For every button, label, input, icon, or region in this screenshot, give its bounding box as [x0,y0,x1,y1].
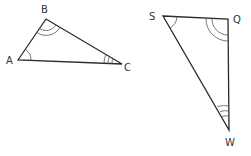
triangles-diagram: A B C S Q W [0,0,251,156]
vertex-label-w: W [225,137,235,148]
angle-q-arc-2 [206,18,228,41]
vertex-label-a: A [6,55,13,66]
angle-s-arc [170,17,177,28]
angle-c-arc-3 [104,55,106,64]
angle-c-arc-2 [108,57,110,64]
vertex-label-b: B [41,4,48,15]
vertex-label-s: S [149,11,155,22]
triangle-sqw: S Q W [149,11,241,148]
angle-w-arc-2 [220,111,229,112]
angle-a-arc [26,50,32,61]
angle-c-arc-1 [112,59,113,64]
triangle-abc: A B C [6,4,131,73]
angle-w-arc-3 [218,106,230,107]
vertex-label-q: Q [233,14,241,25]
vertex-label-c: C [124,62,131,73]
angle-w-arc-1 [222,116,229,117]
triangle-abc-sides [18,19,122,64]
triangle-sqw-sides [163,16,229,130]
angle-q-arc-1 [212,18,228,35]
